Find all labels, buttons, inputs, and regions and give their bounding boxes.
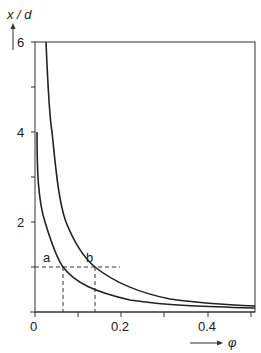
y-tick-6: 6 — [17, 35, 24, 50]
plot-frame — [35, 42, 255, 312]
x-axis-label: φ — [228, 335, 237, 350]
curve-a-label: a — [43, 250, 51, 265]
x-ticks — [35, 312, 251, 317]
y-ticks — [31, 42, 35, 267]
curve-b-label: b — [86, 250, 93, 265]
y-tick-2: 2 — [17, 215, 24, 230]
curve-b — [46, 42, 255, 306]
guide-lines — [35, 267, 120, 312]
x-tick-0-2: 0.2 — [111, 319, 129, 334]
x-tick-0-4: 0.4 — [198, 319, 216, 334]
x-tick-0: 0 — [30, 319, 37, 334]
y-axis-label: x / d — [6, 7, 32, 22]
chart: 6 4 2 0 0.2 0.4 x / d φ a b — [0, 0, 261, 353]
y-arrowhead-icon — [11, 23, 16, 29]
curve-a — [37, 132, 255, 308]
x-arrowhead-icon — [217, 341, 223, 346]
y-tick-4: 4 — [17, 125, 24, 140]
